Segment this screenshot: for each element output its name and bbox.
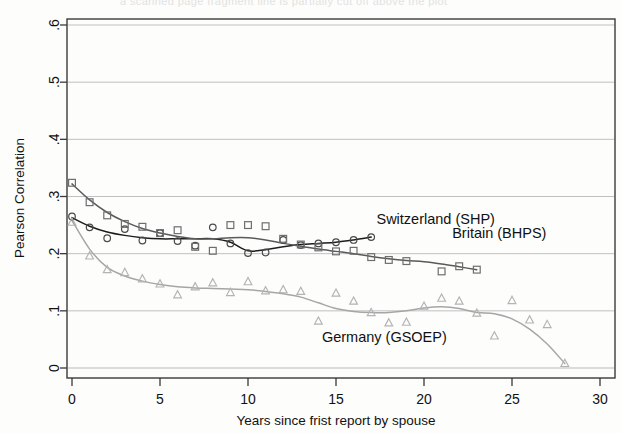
data-point-triangle [279,285,287,292]
data-point-square [262,223,269,230]
data-point-square [209,247,216,254]
data-point-triangle [121,268,129,275]
x-tick-label-25: 25 [504,391,520,407]
data-point-triangle [174,291,182,298]
data-point-square [227,222,234,229]
y-tick-label-.3: .3 [46,190,62,202]
gridlines-group [68,25,614,368]
x-axis-title: Years since frist report by spouse [236,413,435,428]
data-point-triangle [332,289,340,296]
series-label-square: Britain (BHPS) [452,225,546,241]
data-point-triangle [526,316,534,323]
y-tick-label-.1: .1 [46,305,62,317]
data-point-triangle [491,332,499,339]
data-point-triangle [385,319,393,326]
series-inline-labels: Switzerland (SHP)Britain (BHPS)Germany (… [322,211,547,345]
plot-frame [67,19,615,378]
fit-curve-circle [72,218,371,252]
data-point-triangle [438,294,446,301]
data-point-triangle [191,283,199,290]
series-markers [68,179,569,366]
data-point-triangle [508,296,516,303]
y-axis-ticks: 0.1.2.3.4.5.6 [46,19,67,372]
figure-container: a scanned page fragment line is partiall… [0,0,621,433]
data-point-triangle [455,297,463,304]
scan-artifact-text: a scanned page fragment line is partiall… [120,0,447,7]
correlation-scatter-chart: 0.1.2.3.4.5.6 051015202530 Switzerland (… [0,0,621,433]
y-axis-title: Pearson Correlation [12,138,27,258]
markers-square [69,179,481,274]
data-point-triangle [315,317,323,324]
data-point-square [245,222,252,229]
data-point-square [438,268,445,275]
x-tick-label-5: 5 [156,391,164,407]
data-point-triangle [297,287,305,294]
data-point-square [385,257,392,264]
x-tick-label-0: 0 [68,391,76,407]
data-point-circle [210,224,217,231]
scan-artifact-strip: a scanned page fragment line is partiall… [0,0,621,14]
data-point-circle [104,235,111,242]
series-label-triangle: Germany (GSOEP) [322,329,447,345]
x-tick-label-15: 15 [328,391,344,407]
y-tick-label-0: 0 [46,364,62,372]
data-point-triangle [543,320,551,327]
data-point-triangle [262,287,270,294]
x-tick-label-10: 10 [240,391,256,407]
x-tick-label-30: 30 [592,391,608,407]
y-tick-label-.6: .6 [46,19,62,31]
data-point-triangle [350,297,358,304]
x-axis-ticks: 051015202530 [68,378,608,407]
x-tick-label-20: 20 [416,391,432,407]
data-point-square [174,227,181,234]
data-point-triangle [403,318,411,325]
y-tick-label-.2: .2 [46,248,62,260]
data-point-triangle [209,279,217,286]
y-tick-label-.4: .4 [46,133,62,145]
data-point-triangle [244,277,252,284]
y-tick-label-.5: .5 [46,76,62,88]
